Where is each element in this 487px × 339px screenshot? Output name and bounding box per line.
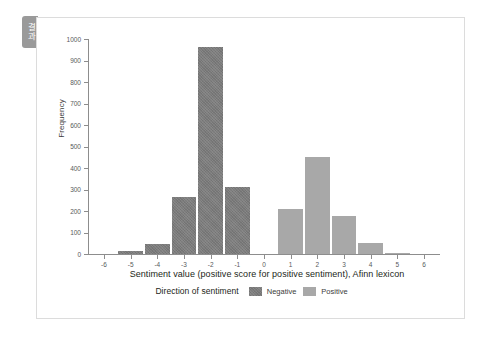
x-axis-tick-label: 1 (281, 261, 301, 269)
x-axis-tick-label: 2 (307, 261, 327, 269)
x-axis-tick (344, 255, 345, 259)
legend-title: Direction of sentiment (155, 286, 238, 296)
y-axis-tick-label: 200 (55, 208, 81, 215)
x-axis-tick (104, 255, 105, 259)
bar-negative--5 (118, 251, 143, 254)
x-axis-tick-label: -1 (227, 261, 247, 269)
y-axis-tick-label: 0 (55, 251, 81, 258)
y-axis-tick-label: 1000 (55, 36, 81, 43)
x-axis-tick-label: -3 (174, 261, 194, 269)
x-axis-title: Sentiment value (positive score for posi… (77, 269, 457, 279)
chart-card: 01002003004005006007008009001000 -6-5-4-… (36, 17, 465, 319)
x-axis-tick-label: -5 (121, 261, 141, 269)
x-axis-tick (157, 255, 158, 259)
x-axis-tick-label: 6 (414, 261, 434, 269)
bar-positive-1 (278, 209, 303, 254)
x-axis-tick-label: -2 (201, 261, 221, 269)
y-axis-tick (84, 147, 88, 148)
x-axis-tick-label: 0 (254, 261, 274, 269)
y-axis-tick (84, 39, 88, 40)
x-axis-tick-label: 3 (334, 261, 354, 269)
chart-legend: Direction of sentiment Negative Positive (37, 286, 466, 296)
bar-negative--2 (198, 47, 223, 254)
y-axis-tick (84, 233, 88, 234)
legend-label-positive: Positive (321, 287, 347, 296)
sentiment-histogram: 01002003004005006007008009001000 -6-5-4-… (37, 18, 464, 318)
bar-positive-4 (358, 243, 383, 254)
bar-negative--3 (172, 197, 197, 254)
screenshot-root: 결과 01002003004005006007008009001000 -6-5… (0, 0, 487, 339)
legend-swatch-negative-icon (249, 287, 262, 296)
x-axis-tick-label: -6 (94, 261, 114, 269)
side-tab-label: 결과 (26, 23, 35, 41)
x-axis-tick (371, 255, 372, 259)
x-axis-tick-label: 5 (387, 261, 407, 269)
bar-negative--4 (145, 244, 170, 254)
bar-positive-3 (332, 216, 357, 254)
x-axis-tick (424, 255, 425, 259)
legend-item-negative[interactable]: Negative (249, 287, 297, 296)
y-axis-tick-label: 300 (55, 186, 81, 193)
y-axis-tick (84, 104, 88, 105)
y-axis-tick-label: 100 (55, 229, 81, 236)
y-axis-tick (84, 254, 88, 255)
x-axis-tick (184, 255, 185, 259)
x-axis-tick (291, 255, 292, 259)
y-axis-tick (84, 168, 88, 169)
x-axis-tick (264, 255, 265, 259)
x-axis-tick-label: 4 (361, 261, 381, 269)
y-axis-tick (84, 125, 88, 126)
legend-label-negative: Negative (267, 287, 297, 296)
y-axis-tick (84, 82, 88, 83)
x-axis-tick (237, 255, 238, 259)
bar-positive-5 (385, 253, 410, 254)
y-axis-title: Frequency (57, 59, 66, 179)
y-axis-tick (84, 190, 88, 191)
legend-swatch-positive-icon (303, 287, 316, 296)
bar-negative--1 (225, 187, 250, 254)
y-axis-line (88, 39, 89, 255)
bar-positive-2 (305, 157, 330, 254)
x-axis-tick (397, 255, 398, 259)
legend-item-positive[interactable]: Positive (303, 287, 347, 296)
x-axis-tick (131, 255, 132, 259)
x-axis-tick-label: -4 (147, 261, 167, 269)
y-axis-tick (84, 211, 88, 212)
x-axis-tick (211, 255, 212, 259)
y-axis-tick (84, 61, 88, 62)
x-axis-tick (317, 255, 318, 259)
